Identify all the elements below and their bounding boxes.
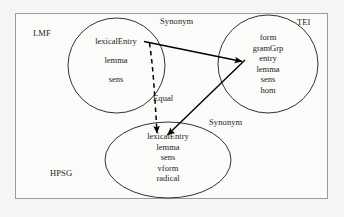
lmf-member-sens: sens (66, 70, 166, 89)
relation-label-equal-lmf-hpsg: Equal (153, 93, 173, 104)
tei-member-lemma: lemma (228, 64, 308, 75)
relation-label-synonym-lmf-tei: Synonym (160, 16, 193, 27)
zone-label-hpsg: HPSG (50, 168, 72, 179)
tei-member-hom: hom (228, 85, 308, 96)
tei-member-gramgrp: gramGrp (228, 43, 308, 54)
zone-label-tei: TEI (297, 17, 311, 28)
diagram-canvas: LMF TEI HPSG lexicalEntry lemma sens for… (0, 0, 344, 217)
zone-label-lmf: LMF (33, 28, 51, 39)
lmf-member-lexicalentry: lexicalEntry (66, 32, 166, 51)
relation-label-synonym-tei-hpsg: Synonym (209, 117, 242, 128)
lmf-member-list: lexicalEntry lemma sens (66, 32, 166, 89)
hpsg-member-list: lexicalEntry lemma sens vform radical (128, 131, 208, 184)
hpsg-member-lemma: lemma (128, 142, 208, 153)
hpsg-member-radical: radical (128, 173, 208, 184)
hpsg-member-sens: sens (128, 152, 208, 163)
tei-member-list: form gramGrp entry lemma sens hom (228, 32, 308, 95)
tei-member-entry: entry (228, 53, 308, 64)
hpsg-member-vform: vform (128, 163, 208, 174)
tei-member-form: form (228, 32, 308, 43)
lmf-member-lemma: lemma (66, 51, 166, 70)
tei-member-sens: sens (228, 74, 308, 85)
hpsg-member-lexicalentry: lexicalEntry (128, 131, 208, 142)
